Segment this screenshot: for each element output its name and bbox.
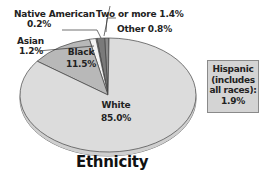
hispanic-annotation-box: Hispanic (includes all races): 1.9% [207,60,259,113]
label-asian: Asian [17,36,44,46]
label-native-american: Native American [14,9,95,19]
label-black: Black 11.5% [63,47,99,69]
chart-title: Ethnicity [76,153,148,171]
label-white: White 85.0% [96,100,136,123]
leader-native [62,30,101,38]
label-native-american-value: 0.2% [27,19,51,29]
label-asian-value: 1.2% [19,46,43,56]
label-two-or-more: Two or more 1.4% [96,9,184,19]
pie-slices [20,38,196,152]
label-other: Other 0.8% [117,24,172,34]
